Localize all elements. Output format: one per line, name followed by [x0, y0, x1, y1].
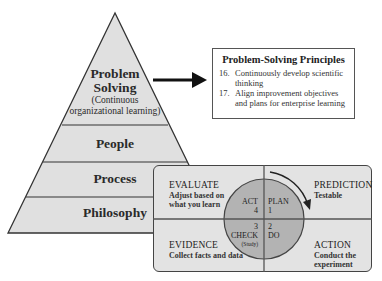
evidence-desc: Collect facts and data [169, 251, 243, 260]
principle-number: 17. [219, 88, 235, 108]
problem-solving-subtitle: (Continuous [55, 95, 175, 106]
check-text: CHECK [231, 231, 258, 240]
pyramid-layer-people: People [55, 136, 175, 152]
evaluate-title: EVALUATE [169, 180, 219, 190]
principle-text: Align improvement objectives [235, 88, 338, 98]
do-label: 2 DO [268, 222, 280, 240]
action-title: ACTION [314, 240, 351, 250]
act-label: ACT 4 [242, 197, 258, 215]
problem-solving-subtitle-2: organizational learning) [55, 106, 175, 117]
plan-text: PLAN [268, 197, 289, 206]
principles-list: 16. Continuously develop scientific thin… [219, 68, 348, 108]
principle-number: 16. [219, 68, 235, 88]
principle-text: Continuously develop scientific [235, 68, 343, 78]
action-desc-2: experiment [314, 260, 353, 269]
plan-number: 1 [268, 206, 289, 215]
principles-title: Problem-Solving Principles [219, 54, 348, 65]
plan-label: PLAN 1 [268, 197, 289, 215]
prediction-desc: Testable [314, 191, 342, 200]
problem-solving-title: Problem [55, 67, 175, 81]
do-text: DO [268, 231, 280, 240]
prediction-title: PREDICTION [314, 180, 372, 190]
evaluate-desc-1: Adjust based on [169, 191, 224, 200]
principles-box: Problem-Solving Principles 16. Continuou… [212, 48, 355, 119]
evaluate-desc-2: what you learn [169, 200, 220, 209]
principle-item: 16. Continuously develop scientific thin… [219, 68, 348, 88]
pdca-box: EVALUATE Adjust based on what you learn … [153, 165, 372, 272]
evidence-title: EVIDENCE [169, 240, 218, 250]
do-number: 2 [268, 222, 280, 231]
action-desc-1: Conduct the [314, 251, 356, 260]
principle-text-cont: thinking [235, 78, 263, 88]
pyramid-layer-problem-solving: Problem Solving (Continuous organization… [55, 67, 175, 117]
principle-text-cont: and plans for enterprise learning [235, 98, 345, 108]
check-note: (Study) [231, 240, 258, 249]
check-label: 3 CHECK (Study) [231, 222, 258, 249]
act-text: ACT [242, 197, 258, 206]
problem-solving-title-2: Solving [55, 81, 175, 95]
check-number: 3 [231, 222, 258, 231]
act-number: 4 [242, 206, 258, 215]
principle-item: 17. Align improvement objectives and pla… [219, 88, 348, 108]
